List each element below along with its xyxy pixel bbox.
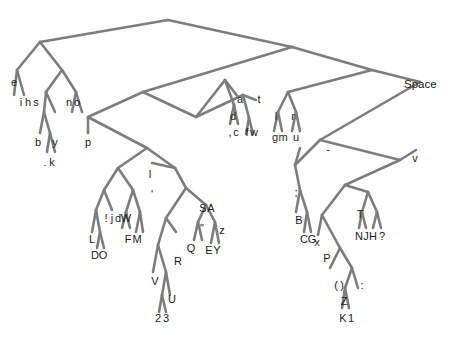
tree-edge: [330, 248, 340, 268]
leaf-label-k: k: [49, 156, 55, 168]
tree-edge: [44, 92, 46, 112]
leaf-label-colon: :: [360, 279, 363, 291]
tree-edge: [288, 92, 296, 112]
leaf-label-H: H: [369, 230, 377, 242]
leaf-label-P: P: [323, 252, 330, 264]
leaf-label-T: T: [357, 208, 364, 220]
tree-edge: [126, 190, 133, 212]
tree-edge: [292, 47, 372, 70]
leaf-label-period: .: [43, 156, 46, 168]
leaf-label-quote: ": [200, 222, 204, 234]
leaf-label-z: z: [219, 224, 225, 236]
tree-edge: [46, 70, 62, 92]
tree-edge: [345, 268, 352, 288]
leaf-label-R: R: [174, 255, 182, 267]
leaf-label-J: J: [363, 230, 369, 242]
leaf-label-j: j: [110, 212, 113, 224]
leaf-label-x: x: [314, 236, 320, 248]
leaf-label-1: 1: [348, 312, 354, 324]
tree-edge: [345, 160, 400, 185]
tree-edge-group: [14, 20, 420, 312]
leaf-label-question: ?: [379, 230, 385, 242]
leaf-label-b: b: [35, 136, 41, 148]
leaf-label-p: p: [85, 136, 91, 148]
leaf-label-Q: Q: [187, 242, 196, 254]
tree-edge: [166, 188, 186, 218]
tree-diagram-canvas: eihsnoby.kpLDO!jdWFMI'VU23RQ"SAEYzad,cfw…: [0, 0, 450, 340]
leaf-label-u: u: [293, 131, 299, 143]
leaf-label-h: h: [25, 96, 31, 108]
tree-edge: [300, 190, 307, 212]
leaf-label-W: W: [121, 212, 132, 224]
leaf-label-v: v: [412, 152, 418, 164]
tree-edge: [40, 20, 168, 42]
tree-edge: [118, 168, 133, 190]
tree-edge: [96, 210, 100, 232]
tree-edge: [243, 95, 249, 118]
leaf-label-w: w: [249, 126, 258, 138]
tree-edge: [278, 112, 282, 131]
tree-edge: [17, 42, 40, 70]
tree-edge: [118, 148, 147, 168]
tree-special-label-group: Space: [404, 78, 437, 90]
leaf-label-c: c: [233, 126, 239, 138]
leaf-label-E: E: [205, 244, 212, 256]
leaf-label-l: l: [275, 110, 277, 122]
tree-edge: [153, 245, 158, 272]
leaf-label-N: N: [355, 230, 363, 242]
tree-edge: [352, 268, 358, 288]
leaf-label-M: M: [132, 233, 141, 245]
tree-edge: [133, 190, 140, 212]
leaf-label-Y: Y: [213, 244, 221, 256]
leaf-label-K: K: [339, 312, 347, 324]
tree-edge: [62, 70, 76, 92]
tree-edge: [44, 112, 50, 133]
leaf-label-apostrophe: ': [151, 188, 153, 200]
tree-edge: [158, 218, 166, 245]
leaf-label-e: e: [11, 76, 17, 88]
leaf-label-r: r: [291, 110, 295, 122]
tree-edge: [368, 192, 377, 212]
leaf-label-i: i: [20, 96, 22, 108]
tree-edge: [296, 112, 300, 131]
leaf-label-space: Space: [404, 78, 437, 90]
leaf-label-t: t: [257, 93, 260, 105]
leaf-label-Z: Z: [341, 295, 348, 307]
tree-edge: [96, 190, 104, 210]
leaf-label-V: V: [151, 275, 159, 287]
leaf-label-m: m: [278, 131, 287, 143]
tree-edge: [166, 272, 170, 295]
huffman-tree-figure: eihsnoby.kpLDO!jdWFMI'VU23RQ"SAEYzad,cfw…: [0, 0, 450, 340]
leaf-label-2: 2: [155, 312, 161, 324]
leaf-label-comma: ,: [228, 126, 231, 138]
tree-edge: [88, 92, 143, 117]
tree-edge: [278, 92, 288, 112]
leaf-label-s: s: [33, 96, 39, 108]
leaf-label-F: F: [125, 233, 132, 245]
leaf-label-L: L: [89, 233, 95, 245]
tree-edge: [104, 168, 118, 190]
tree-edge: [158, 245, 166, 272]
tree-edge: [340, 248, 352, 268]
leaf-label-d: d: [230, 110, 236, 122]
tree-edge: [143, 92, 196, 117]
leaf-label-exclaim: !: [104, 212, 107, 224]
tree-edge: [40, 42, 62, 70]
tree-edge: [288, 70, 372, 92]
tree-edge: [46, 92, 55, 112]
tree-edge: [166, 218, 176, 232]
tree-edge: [162, 295, 166, 312]
tree-edge: [88, 117, 147, 148]
tree-edge: [143, 47, 292, 92]
tree-edge: [104, 190, 112, 210]
tree-edge: [345, 185, 368, 192]
leaf-label-rparen: ): [340, 279, 344, 291]
tree-edge: [100, 232, 104, 248]
tree-edge: [307, 212, 311, 232]
tree-edge: [40, 112, 44, 133]
leaf-label-B: B: [295, 214, 302, 226]
tree-edge: [320, 140, 400, 160]
tree-edge: [318, 215, 322, 235]
tree-edge: [322, 215, 340, 248]
tree-edge: [322, 185, 345, 215]
